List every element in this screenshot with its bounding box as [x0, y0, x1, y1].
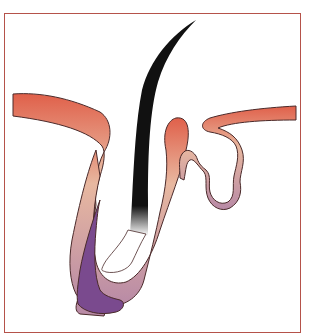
outer-root-sheath-right — [180, 106, 297, 210]
hair-bulb — [102, 230, 146, 273]
